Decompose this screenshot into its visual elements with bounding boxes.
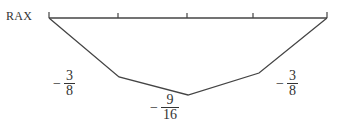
value-left: − 3 8: [53, 69, 75, 98]
denominator: 8: [287, 84, 298, 98]
denominator: 16: [161, 108, 179, 122]
value-right: − 3 8: [276, 69, 298, 98]
tick-marks: [49, 12, 327, 18]
numerator: 3: [287, 69, 298, 83]
minus-sign: −: [53, 76, 61, 92]
rax-label: RAX: [6, 9, 32, 24]
value-center: − 9 16: [150, 93, 179, 122]
denominator: 8: [64, 84, 75, 98]
numerator: 9: [164, 93, 175, 107]
minus-sign: −: [276, 76, 284, 92]
numerator: 3: [64, 69, 75, 83]
minus-sign: −: [150, 100, 158, 116]
